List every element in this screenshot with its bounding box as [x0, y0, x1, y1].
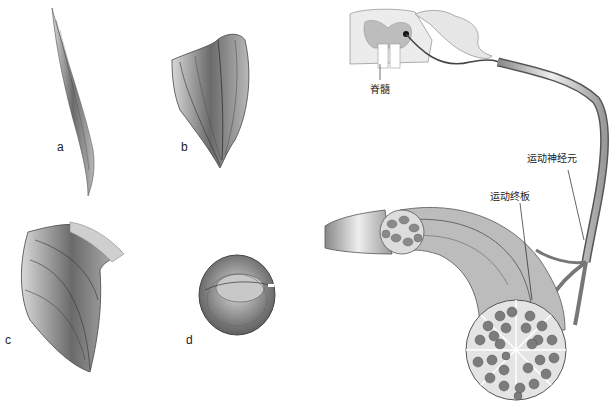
- label-b: b: [181, 140, 188, 154]
- label-d: d: [186, 333, 193, 347]
- label-c: c: [5, 333, 11, 347]
- spinal-cord-section: [350, 9, 432, 80]
- muscle-a-fusiform: [52, 8, 94, 196]
- skeletal-muscle-bundle: [325, 207, 566, 400]
- muscle-c-convergent: [21, 222, 124, 372]
- label-motor-neuron: 运动神经元: [527, 150, 577, 165]
- diagram-canvas: [0, 0, 614, 407]
- motor-neuron-leader: [568, 170, 584, 240]
- muscle-d-circular: [199, 255, 275, 335]
- label-a: a: [57, 140, 64, 154]
- label-motor-end-plate: 运动终板: [490, 188, 530, 203]
- label-spinal-cord: 脊髓: [370, 81, 390, 96]
